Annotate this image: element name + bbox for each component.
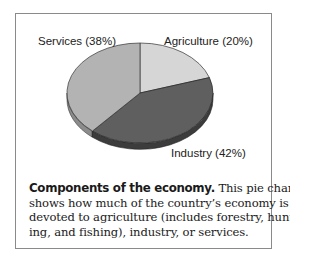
caption-text: This pie chart bbox=[215, 181, 290, 195]
caption-line-1: Components of the economy. This pie char… bbox=[29, 181, 263, 196]
caption-line-2: shows how much of the country’s economy … bbox=[29, 196, 263, 211]
label-services: Services (38%) bbox=[38, 36, 116, 48]
caption-line-4: ing, and fishing), industry, or services… bbox=[29, 225, 263, 240]
label-agriculture: Agriculture (20%) bbox=[164, 36, 253, 48]
figure-caption: Components of the economy. This pie char… bbox=[29, 181, 263, 239]
caption-title: Components of the economy. bbox=[29, 181, 215, 195]
label-industry: Industry (42%) bbox=[171, 148, 246, 160]
caption-line-3: devoted to agriculture (includes forestr… bbox=[29, 210, 263, 225]
